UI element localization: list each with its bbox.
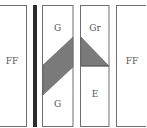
panel-g: G G (43, 6, 74, 127)
label-ff-right: FF (126, 56, 139, 66)
separator-bar (33, 5, 37, 127)
panel-ff-right-box (117, 6, 147, 127)
label-g-bottom: G (54, 99, 61, 109)
label-e: E (92, 89, 99, 99)
panel-ff-left-box (0, 6, 27, 127)
panel-gr-e: Gr E (81, 6, 110, 127)
zone-diagram: FF G G Gr E FF (0, 0, 146, 128)
label-gr: Gr (89, 23, 101, 33)
panel-ff-left: FF (0, 6, 27, 127)
label-ff-left: FF (6, 56, 19, 66)
label-g-top: G (54, 23, 61, 33)
panel-ff-right: FF (117, 6, 147, 127)
